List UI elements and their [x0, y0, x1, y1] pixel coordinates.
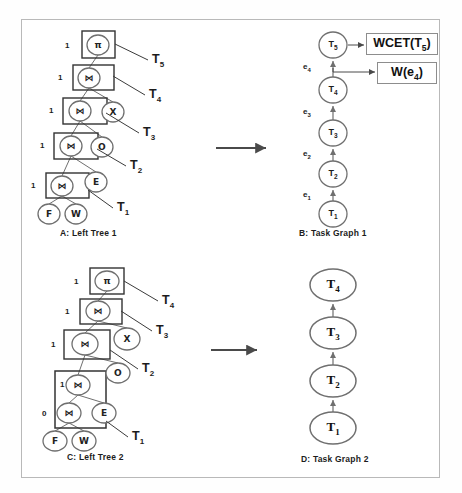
c-node-cost-c-j2: 1	[51, 340, 55, 349]
a-node-glyph-a-j2: ⋈	[67, 141, 76, 151]
caption-panel-a: A: Left Tree 1	[60, 228, 117, 238]
b-task-node-label-b-t5: T5	[329, 39, 338, 51]
b-edge-label-e2: e2	[303, 149, 311, 160]
c-node-glyph-c-f: F	[52, 436, 58, 446]
a-task-leader-label-T2: T2	[130, 158, 142, 175]
d-task-node-label-d-t4: T4	[327, 276, 340, 294]
caption-panel-b: B: Task Graph 1	[299, 228, 367, 238]
d-task-node-label-d-t2: T2	[327, 372, 340, 390]
a-task-leader-label-T4: T4	[149, 87, 161, 104]
d-task-node-label-d-t3: T3	[327, 324, 340, 342]
a-task-leader-label-T5: T5	[152, 52, 164, 69]
c-node-glyph-c-j2: ⋈	[81, 339, 90, 349]
a-node-glyph-a-j3: ⋈	[76, 106, 85, 116]
a-node-cost-a-j2: 1	[40, 141, 44, 150]
c-node-cost-c-j3: 1	[65, 307, 69, 316]
a-node-glyph-a-j1: ⋈	[58, 181, 67, 191]
b-edge-label-e1: e1	[303, 190, 311, 201]
a-node-glyph-a-o: O	[98, 142, 106, 152]
caption-panel-c: C: Left Tree 2	[67, 452, 124, 462]
wcet-box: WCET(T5)	[366, 33, 438, 55]
figure-outer-border	[21, 19, 440, 478]
b-edge-label-e3: e3	[303, 107, 311, 118]
c-task-leader-label-T4: T4	[162, 293, 174, 310]
a-task-leader-label-T3: T3	[143, 125, 155, 142]
a-task-leader-label-T1: T1	[117, 200, 129, 217]
c-node-glyph-c-j3: ⋈	[94, 306, 103, 316]
a-node-glyph-a-x: X	[110, 107, 117, 117]
a-node-cost-a-pi: 1	[65, 41, 69, 50]
caption-panel-d: D: Task Graph 2	[301, 454, 369, 464]
c-node-glyph-c-j1: ⋈	[74, 380, 83, 390]
a-node-glyph-a-j4: ⋈	[85, 73, 94, 83]
c-node-cost-c-pi: 1	[74, 277, 78, 286]
c-group-inner-cost: 1	[60, 380, 64, 389]
w-edge-box: W(e4)	[377, 62, 437, 84]
b-edge-label-e4: e4	[303, 62, 311, 73]
c-node-glyph-c-pi: π	[104, 276, 111, 286]
b-task-node-label-b-t2: T2	[329, 168, 338, 180]
c-node-glyph-c-o: O	[114, 368, 122, 378]
a-node-glyph-a-pi: π	[95, 40, 102, 50]
c-node-glyph-c-e: E	[101, 408, 107, 418]
b-task-node-label-b-t1: T1	[329, 208, 338, 220]
a-node-cost-a-j4: 1	[58, 73, 62, 82]
c-node-glyph-c-j0: ⋈	[65, 408, 74, 418]
c-node-glyph-c-x: X	[124, 334, 131, 344]
c-task-leader-label-T3: T3	[156, 323, 168, 340]
figure-root: π1⋈1⋈1⋈1⋈1XOEFWT5T4T3T2T110π1⋈1⋈1⋈⋈XOEFW…	[0, 0, 462, 493]
b-task-node-label-b-t4: T4	[329, 84, 338, 96]
a-node-glyph-a-f: F	[46, 209, 52, 219]
c-task-leader-label-T2: T2	[142, 361, 154, 378]
c-node-glyph-c-w: W	[79, 436, 89, 446]
b-task-node-label-b-t3: T3	[329, 127, 338, 139]
c-task-leader-label-T1: T1	[132, 429, 144, 446]
a-node-cost-a-j3: 1	[49, 106, 53, 115]
a-node-glyph-a-w: W	[71, 209, 81, 219]
a-node-glyph-a-e: E	[93, 177, 99, 187]
c-group-outer-cost: 0	[42, 409, 46, 418]
d-task-node-label-d-t1: T1	[327, 419, 340, 437]
a-node-cost-a-j1: 1	[31, 181, 35, 190]
